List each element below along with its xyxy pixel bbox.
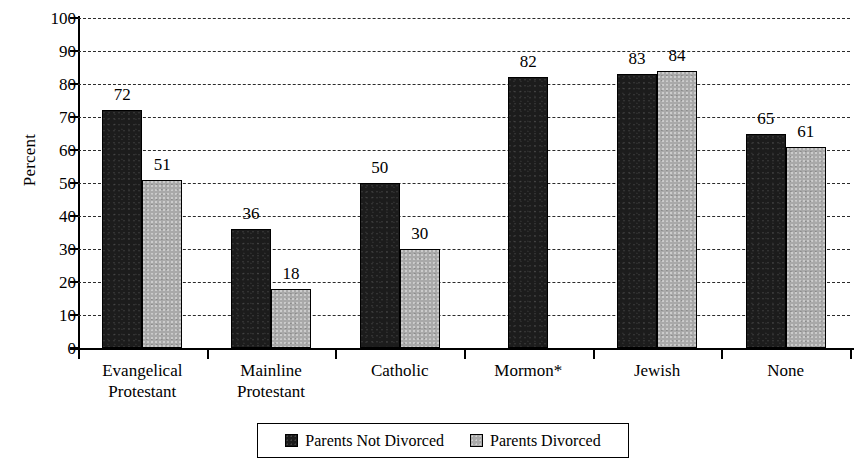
bar-value-label: 84 [669,47,686,64]
category-label-line: Catholic [335,360,464,381]
x-axis-tick-mark [464,350,466,359]
bar-value-label: 65 [757,110,774,127]
bar-group-bars: 8384 [617,18,697,348]
legend-label: Parents Divorced [490,433,601,449]
bar-divorced[interactable]: 61 [786,147,826,348]
bar-group: 3618 [207,18,336,348]
y-axis-tick-mark [70,182,78,184]
y-axis-tick-mark [70,248,78,250]
bar-divorced[interactable]: 30 [400,249,440,348]
bar-not-divorced[interactable]: 72 [102,110,142,348]
y-axis-tick-mark [70,116,78,118]
category-label-line: Evangelical [78,360,207,381]
x-axis-category-label: Jewish [593,360,722,403]
bar-not-divorced[interactable]: 83 [617,74,657,348]
bar-value-label: 61 [797,123,814,140]
x-axis-tick-mark [335,350,337,359]
y-axis-tick-mark [70,83,78,85]
bar-value-label: 18 [283,265,300,282]
legend-item[interactable]: Parents Not Divorced [285,433,444,449]
bar-group: 7251 [78,18,207,348]
bar-group-bars: 5030 [360,18,440,348]
y-axis-tick-mark [70,314,78,316]
bar-group-bars: 7251 [102,18,182,348]
x-axis-category-label: EvangelicalProtestant [78,360,207,403]
category-label-line: Jewish [593,360,722,381]
legend-swatch-light [470,434,483,447]
bar-divorced[interactable]: 18 [271,289,311,348]
bar-not-divorced[interactable]: 82 [508,77,548,348]
category-label-line: Mormon* [464,360,593,381]
bar-group-bars: 82 [508,18,548,348]
bar-not-divorced[interactable]: 65 [746,134,786,349]
bar-group-bars: 3618 [231,18,311,348]
bar-value-label: 72 [114,86,131,103]
bar-divorced[interactable]: 84 [657,71,697,348]
category-label-line: None [721,360,850,381]
bar-value-label: 82 [520,53,537,70]
x-axis-category-label: None [721,360,850,403]
bar-group: 5030 [335,18,464,348]
bar-not-divorced[interactable]: 50 [360,183,400,348]
bar-value-label: 36 [243,205,260,222]
bar-value-label: 50 [371,159,388,176]
x-axis-tick-mark [207,350,209,359]
category-label-line: Mainline [207,360,336,381]
grouped-bar-chart: Percent 1009080706050403020100 725136185… [0,0,859,472]
y-axis-tick-mark [70,149,78,151]
x-axis-tick-mark [593,350,595,359]
x-axis-category-label: MainlineProtestant [207,360,336,403]
category-label-line: Protestant [207,381,336,402]
legend-item[interactable]: Parents Divorced [470,433,601,449]
chart-legend: Parents Not DivorcedParents Divorced [257,423,629,458]
bar-not-divorced[interactable]: 36 [231,229,271,348]
y-axis-tick-mark [70,50,78,52]
x-axis-category-label: Catholic [335,360,464,403]
x-axis-category-labels: EvangelicalProtestantMainlineProtestantC… [78,360,850,403]
y-axis-tick-mark [70,281,78,283]
bar-groups: 7251361850308283846561 [78,18,850,348]
y-axis-tick-mark [70,215,78,217]
x-axis-tick-marks [78,350,850,360]
legend-label: Parents Not Divorced [305,433,444,449]
x-axis-tick-mark [78,350,80,359]
x-axis-tick-mark [850,350,852,359]
bar-group: 82 [464,18,593,348]
bar-value-label: 83 [629,50,646,67]
y-axis-tick-mark [70,17,78,19]
legend-swatch-dark [285,434,298,447]
bar-divorced[interactable]: 51 [142,180,182,348]
y-axis-tick-labels: 1009080706050403020100 [0,18,76,348]
x-axis-category-label: Mormon* [464,360,593,403]
x-axis-tick-mark [721,350,723,359]
gridline [78,348,850,349]
category-label-line: Protestant [78,381,207,402]
bar-group: 8384 [593,18,722,348]
bar-group-bars: 6561 [746,18,826,348]
bar-group: 6561 [721,18,850,348]
bar-value-label: 30 [411,225,428,242]
bar-value-label: 51 [154,156,171,173]
